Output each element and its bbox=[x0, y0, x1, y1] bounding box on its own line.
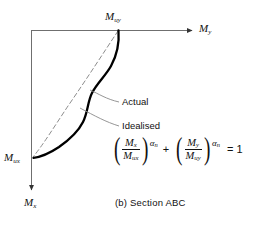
interaction-equation: ( Mx Mux ) αn + ( My Muy ) αn = 1 bbox=[112, 137, 243, 162]
actual-curve-label: Actual bbox=[122, 97, 148, 107]
actual-leader-line bbox=[90, 90, 119, 102]
my-axis-label: My bbox=[199, 23, 211, 36]
equation-result: = 1 bbox=[227, 143, 243, 155]
figure-caption: (b) Section ABC bbox=[115, 197, 186, 208]
term1-numerator: Mx bbox=[124, 137, 138, 148]
term2-close-paren: ) bbox=[204, 137, 210, 161]
diagram-canvas bbox=[0, 0, 269, 227]
term2-fraction: My Muy bbox=[185, 137, 202, 162]
term2-exponent: αn bbox=[212, 138, 220, 148]
term1-open-paren: ( bbox=[114, 137, 120, 161]
mux-label: Mux bbox=[4, 152, 20, 165]
term2-denominator: Muy bbox=[185, 150, 202, 161]
idealised-curve bbox=[33, 31, 118, 157]
term2-numerator: My bbox=[186, 137, 200, 148]
term1-denominator: Mux bbox=[122, 150, 139, 161]
muy-label: Muy bbox=[105, 11, 121, 24]
term2-open-paren: ( bbox=[176, 137, 182, 161]
term1-exponent: αn bbox=[150, 138, 158, 148]
idealised-curve-label: Idealised bbox=[122, 121, 160, 131]
equation-plus-operator: + bbox=[163, 143, 169, 155]
term1-close-paren: ) bbox=[141, 137, 147, 161]
term1-fraction: Mx Mux bbox=[122, 137, 139, 162]
mx-axis-label: Mx bbox=[24, 197, 36, 210]
moment-interaction-diagram: Muy My Mux Mx Actual Idealised ( Mx Mux … bbox=[0, 0, 269, 227]
